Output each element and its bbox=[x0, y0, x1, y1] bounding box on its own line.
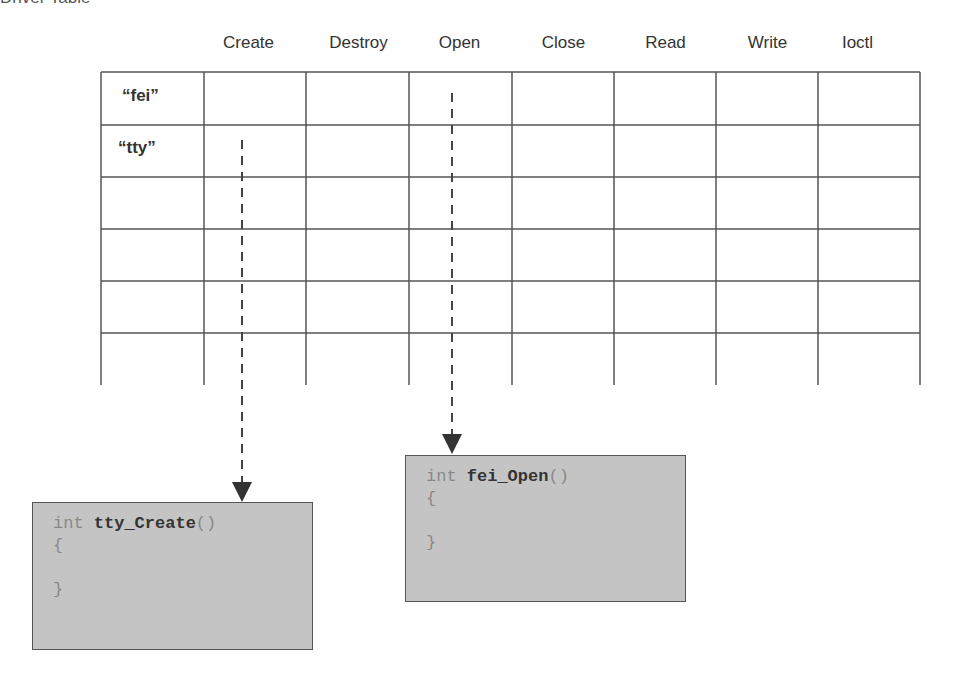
code-parens: () bbox=[196, 514, 216, 533]
code-box-fei-open: int fei_Open() { } bbox=[405, 455, 686, 602]
arrowhead-down-icon bbox=[232, 482, 252, 502]
open-brace: { bbox=[53, 535, 312, 557]
function-name: tty_Create bbox=[94, 514, 196, 533]
code-keyword: int bbox=[53, 514, 84, 533]
function-name: fei_Open bbox=[467, 467, 549, 486]
close-brace: } bbox=[426, 532, 685, 554]
row-label-fei: “fei” bbox=[122, 86, 159, 106]
code-parens: () bbox=[548, 467, 568, 486]
code-keyword: int bbox=[426, 467, 457, 486]
open-brace: { bbox=[426, 488, 685, 510]
row-label-tty: “tty” bbox=[118, 138, 156, 158]
code-box-tty-create: int tty_Create() { } bbox=[32, 502, 313, 650]
close-brace: } bbox=[53, 579, 312, 601]
arrowhead-down-icon bbox=[442, 434, 462, 454]
